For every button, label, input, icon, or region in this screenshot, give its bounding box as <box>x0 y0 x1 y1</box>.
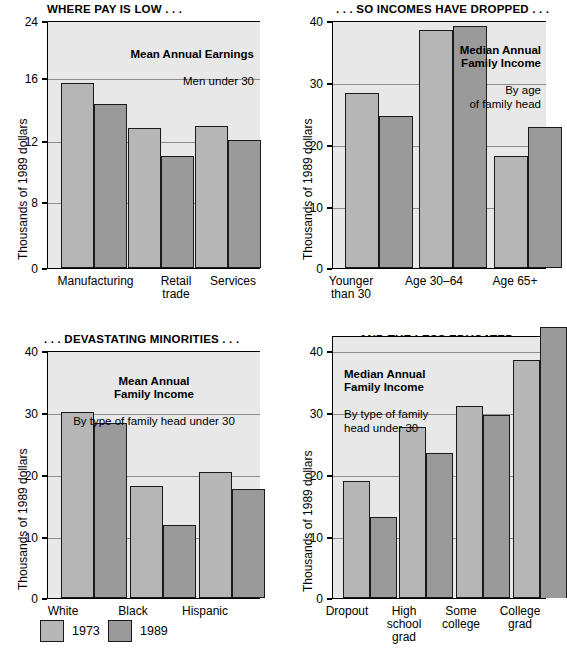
xtick-label-age-65-plus: Age 65+ <box>477 275 553 288</box>
legend-swatch-1973 <box>40 620 64 642</box>
ytick-label-10: 10 <box>12 531 38 545</box>
bar-1989-white <box>94 423 127 598</box>
plot-area: Mean Annual Earnings Men under 30 <box>47 21 260 269</box>
ytick-mark-20 <box>42 475 47 477</box>
ytick-label-0: 0 <box>12 592 38 606</box>
ytick-mark-0 <box>42 268 47 270</box>
legend-item-1973: 1973 <box>40 620 100 642</box>
ytick-mark-24 <box>42 21 47 23</box>
ytick-mark-40 <box>42 351 47 353</box>
panel-so-incomes-have-dropped: . . . SO INCOMES HAVE DROPPED . . . Thou… <box>281 0 562 320</box>
bar-1973-black <box>130 486 163 598</box>
bar-1989-manufacturing <box>94 104 127 268</box>
legend-label-1989: 1989 <box>140 624 168 638</box>
annotation-bold: Mean Annual Family Income <box>48 375 260 402</box>
ytick-mark-0 <box>42 598 47 600</box>
ytick-mark-16 <box>42 78 47 80</box>
ytick-label-30: 30 <box>297 407 323 421</box>
ytick-mark-40 <box>327 21 332 23</box>
plot-area: Median Annual Family Income By type of f… <box>332 336 546 599</box>
bar-1973-manufacturing <box>61 83 94 268</box>
ytick-label-8: 8 <box>14 196 38 210</box>
annotation-sub: By type of family head under 30 <box>344 408 428 434</box>
bar-1973-white <box>61 412 94 598</box>
ytick-mark-30 <box>42 413 47 415</box>
ytick-mark-8 <box>42 202 47 204</box>
panel-annotation: Mean Annual Family Income By type of fam… <box>48 361 260 429</box>
bar-1989-hispanic <box>232 489 265 598</box>
ytick-mark-0 <box>327 268 332 270</box>
bar-1973-services <box>195 126 228 268</box>
xtick-label-age-30-64: Age 30–64 <box>393 275 475 288</box>
ytick-label-40: 40 <box>297 345 323 359</box>
panel-annotation: Median Annual Family Income By age of fa… <box>460 30 541 111</box>
bar-1989-younger-than-30 <box>379 116 413 268</box>
bar-1989-high-school-grad <box>426 453 453 598</box>
bar-1989-dropout <box>370 517 397 598</box>
annotation-sub: Men under 30 <box>183 75 254 87</box>
plot-area: Mean Annual Family Income By type of fam… <box>47 351 260 599</box>
annotation-sub: By type of family head under 30 <box>73 415 235 427</box>
ytick-label-30: 30 <box>297 77 323 91</box>
bar-1989-retail-trade <box>161 156 194 268</box>
panel-and-the-less-educated: . . . AND THE LESS EDUCATED Thousands of… <box>281 330 562 620</box>
panel-devastating-minorities: . . . DEVASTATING MINORITIES . . . Thous… <box>0 330 281 620</box>
bar-1989-some-college <box>483 415 510 598</box>
ytick-label-0: 0 <box>297 592 323 606</box>
panel-title: WHERE PAY IS LOW . . . <box>47 3 182 15</box>
plot-area: Median Annual Family Income By age of fa… <box>332 21 546 269</box>
bar-1973-age-65-plus <box>494 156 528 268</box>
ytick-label-40: 40 <box>297 15 323 29</box>
gridline-40 <box>333 352 546 353</box>
ytick-label-20: 20 <box>12 469 38 483</box>
bar-1973-hispanic <box>199 472 232 598</box>
panel-annotation: Median Annual Family Income By type of f… <box>344 354 428 435</box>
xtick-label-younger-than-30: Younger than 30 <box>311 275 391 301</box>
ytick-label-10: 10 <box>297 531 323 545</box>
legend-swatch-1989 <box>108 620 132 642</box>
panel-title: . . . SO INCOMES HAVE DROPPED . . . <box>336 3 549 15</box>
xtick-label-manufacturing: Manufacturing <box>48 275 143 288</box>
bar-1989-college-grad <box>540 327 567 598</box>
ytick-label-12: 12 <box>14 135 38 149</box>
panel-where-pay-is-low: WHERE PAY IS LOW . . . Thousands of 1989… <box>0 0 281 320</box>
annotation-bold: Mean Annual Earnings <box>130 48 254 62</box>
bar-1989-age-65-plus <box>528 127 562 268</box>
ytick-mark-12 <box>42 141 47 143</box>
ytick-label-20: 20 <box>297 139 323 153</box>
ytick-mark-10 <box>42 537 47 539</box>
annotation-sub: By age of family head <box>469 84 541 110</box>
ytick-mark-30 <box>327 413 332 415</box>
ytick-label-40: 40 <box>12 345 38 359</box>
legend: 1973 1989 <box>0 612 562 662</box>
ytick-mark-10 <box>327 207 332 209</box>
ytick-label-20: 20 <box>297 469 323 483</box>
ytick-label-10: 10 <box>297 201 323 215</box>
panel-title: . . . DEVASTATING MINORITIES . . . <box>44 333 239 345</box>
bar-1973-high-school-grad <box>399 427 426 598</box>
ytick-label-0: 0 <box>14 262 38 276</box>
bar-1973-age-30-64 <box>419 30 453 268</box>
ytick-mark-20 <box>327 145 332 147</box>
ytick-label-24: 24 <box>14 15 38 29</box>
ytick-mark-40 <box>327 351 332 353</box>
annotation-bold: Median Annual Family Income <box>344 368 428 395</box>
legend-label-1973: 1973 <box>72 624 100 638</box>
bar-1989-black <box>163 525 196 598</box>
bar-1989-services <box>228 140 261 268</box>
bar-1973-dropout <box>343 481 370 598</box>
annotation-bold: Median Annual Family Income <box>460 44 541 71</box>
ytick-mark-10 <box>327 537 332 539</box>
xtick-label-services: Services <box>200 275 266 288</box>
ytick-label-30: 30 <box>12 407 38 421</box>
bar-1973-retail-trade <box>128 128 161 268</box>
bar-1973-some-college <box>456 406 483 598</box>
ytick-label-16: 16 <box>14 72 38 86</box>
ytick-mark-0 <box>327 598 332 600</box>
legend-item-1989: 1989 <box>108 620 168 642</box>
bar-1973-younger-than-30 <box>345 93 379 268</box>
ytick-label-0: 0 <box>297 262 323 276</box>
panel-annotation: Mean Annual Earnings Men under 30 <box>130 34 254 88</box>
ytick-mark-30 <box>327 83 332 85</box>
